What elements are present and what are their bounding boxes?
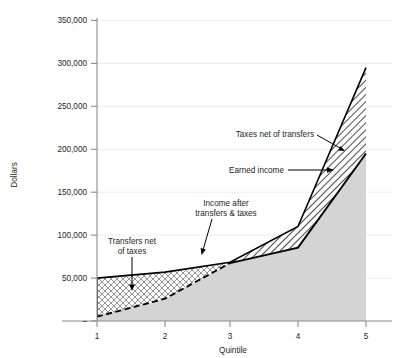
y-tick-label-0: – xyxy=(82,317,87,326)
y-tick-label-250000: 250,000 xyxy=(57,102,87,111)
x-tick-label-4: 4 xyxy=(296,332,301,341)
chart-container: 350,000 300,000 250,000 200,000 150,000 … xyxy=(0,0,410,358)
x-axis-title: Quintile xyxy=(219,346,247,355)
y-tick-label-100000: 100,000 xyxy=(57,231,87,240)
annotation-transfers-net-of-taxes-line1: Transfers net xyxy=(108,237,157,246)
y-axis-title: Dollars xyxy=(10,162,19,187)
y-tick-label-300000: 300,000 xyxy=(57,59,87,68)
y-tick-label-150000: 150,000 xyxy=(57,188,87,197)
annotation-earned-income: Earned income xyxy=(229,166,285,175)
annotation-income-after-line2: transfers & taxes xyxy=(195,209,256,218)
y-tick-label-350000: 350,000 xyxy=(57,16,87,25)
income-quintile-area-chart: 350,000 300,000 250,000 200,000 150,000 … xyxy=(0,0,410,358)
x-tick-label-2: 2 xyxy=(163,332,168,341)
x-tick-label-5: 5 xyxy=(364,332,369,341)
y-tick-label-50000: 50,000 xyxy=(62,274,87,283)
annotation-income-after-line1: Income after xyxy=(203,199,249,208)
y-tick-label-200000: 200,000 xyxy=(57,145,87,154)
x-tick-label-1: 1 xyxy=(95,332,100,341)
annotation-taxes-net-of-transfers: Taxes net of transfers xyxy=(236,130,314,139)
annotation-transfers-net-of-taxes-line2: of taxes xyxy=(118,247,147,256)
x-tick-label-3: 3 xyxy=(228,332,233,341)
